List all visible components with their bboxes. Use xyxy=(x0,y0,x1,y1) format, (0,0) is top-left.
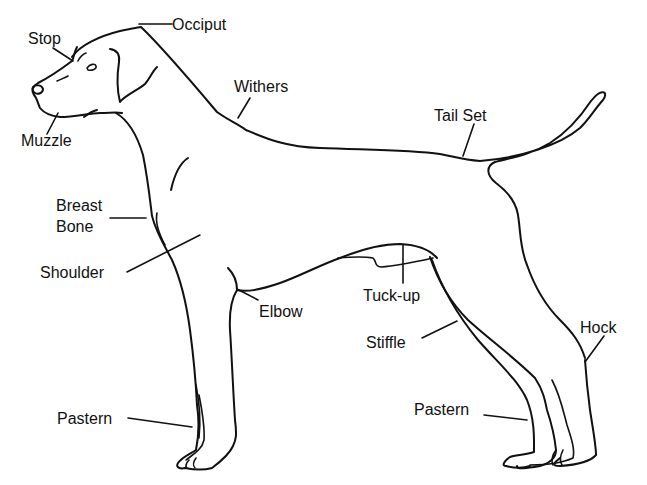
dog-anatomy-diagram: Stop Occiput Withers Muzzle Tail Set Bre… xyxy=(0,0,647,485)
label-pastern-front: Pastern xyxy=(57,409,112,428)
leader-withers xyxy=(238,98,250,118)
label-tail-set: Tail Set xyxy=(434,106,486,125)
label-shoulder: Shoulder xyxy=(40,263,104,282)
label-breast-bone-line1: Breast xyxy=(56,196,102,215)
neck-chest-outline xyxy=(116,113,237,470)
leader-pastern-rear xyxy=(484,415,527,420)
label-pastern-rear: Pastern xyxy=(414,400,469,419)
label-hock: Hock xyxy=(580,318,616,337)
label-elbow: Elbow xyxy=(259,302,303,321)
label-stop: Stop xyxy=(28,29,61,48)
eye-icon xyxy=(87,64,96,70)
leader-stiffle xyxy=(422,321,457,338)
shoulder-curve xyxy=(171,158,188,190)
leader-stop xyxy=(53,48,73,61)
belly-outline xyxy=(228,244,437,291)
head-top-outline xyxy=(72,27,605,358)
face-outline xyxy=(33,47,122,117)
leader-tail-set xyxy=(463,124,474,156)
leader-hock xyxy=(585,336,604,362)
label-stiffle: Stiffle xyxy=(366,333,406,352)
ear-outline xyxy=(110,49,157,102)
label-occiput: Occiput xyxy=(172,15,226,34)
brow-mark xyxy=(78,53,86,61)
hind-hock-outline xyxy=(554,360,596,466)
label-muzzle: Muzzle xyxy=(21,131,72,150)
label-breast-bone-line2: Bone xyxy=(56,217,93,236)
label-withers: Withers xyxy=(234,77,288,96)
nose-icon xyxy=(32,85,43,94)
label-tuck-up: Tuck-up xyxy=(363,286,420,305)
tuck-up-fold xyxy=(338,257,433,267)
mouth-mark xyxy=(57,76,68,81)
leader-pastern-front xyxy=(128,418,192,427)
